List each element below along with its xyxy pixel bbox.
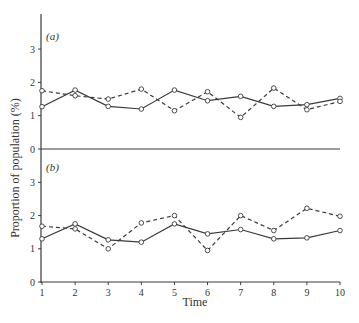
x-tick-label: 7: [238, 287, 243, 298]
data-point-marker: [238, 213, 243, 218]
x-tick-label: 8: [271, 287, 276, 298]
data-point-marker: [106, 238, 111, 243]
y-tick-label: 3: [30, 177, 35, 188]
x-tick-label: 9: [304, 287, 309, 298]
data-point-marker: [73, 93, 78, 98]
data-point-marker: [172, 108, 177, 113]
y-tick-label: 3: [30, 44, 35, 55]
series-solid-line: [42, 90, 340, 109]
data-point-marker: [106, 97, 111, 102]
data-point-marker: [73, 222, 78, 227]
x-tick-label: 1: [40, 287, 45, 298]
data-point-marker: [205, 232, 210, 237]
data-point-marker: [73, 88, 78, 93]
data-point-marker: [305, 206, 310, 211]
y-tick-label: 1: [30, 110, 35, 121]
y-axis-title: Proportion of population (%): [8, 98, 22, 238]
panel-b-label: (b): [46, 161, 59, 174]
x-tick-label: 2: [73, 287, 78, 298]
data-point-marker: [40, 224, 45, 229]
data-point-marker: [271, 104, 276, 109]
panel-a-label: (a): [46, 30, 59, 43]
x-tick-label: 5: [172, 287, 177, 298]
data-point-marker: [139, 240, 144, 245]
data-point-marker: [139, 221, 144, 226]
data-point-marker: [139, 107, 144, 112]
data-point-marker: [205, 98, 210, 103]
data-point-marker: [238, 94, 243, 99]
data-point-marker: [205, 248, 210, 253]
series-dashed-line: [42, 88, 340, 117]
data-point-marker: [338, 228, 343, 233]
y-tick-label: 2: [30, 210, 35, 221]
data-point-marker: [139, 87, 144, 92]
data-point-marker: [40, 237, 45, 242]
data-point-marker: [271, 228, 276, 233]
data-point-marker: [271, 86, 276, 91]
data-point-marker: [305, 107, 310, 112]
data-point-marker: [40, 104, 45, 109]
data-point-marker: [338, 214, 343, 219]
panel-a: 0123: [30, 44, 342, 155]
data-point-marker: [305, 236, 310, 241]
data-point-marker: [338, 99, 343, 104]
data-point-marker: [172, 88, 177, 93]
chart: 0123 012312345678910 (a) (b) Time Propor…: [0, 0, 359, 323]
y-tick-label: 2: [30, 77, 35, 88]
data-point-marker: [238, 115, 243, 120]
data-point-marker: [106, 104, 111, 109]
data-point-marker: [106, 247, 111, 252]
data-point-marker: [238, 227, 243, 232]
data-point-marker: [73, 227, 78, 232]
data-point-marker: [271, 237, 276, 242]
data-point-marker: [172, 213, 177, 218]
x-tick-label: 10: [335, 287, 345, 298]
y-tick-label: 0: [30, 144, 35, 155]
x-tick-label: 4: [139, 287, 144, 298]
x-axis-title: Time: [183, 295, 208, 309]
y-tick-label: 0: [30, 277, 35, 288]
data-point-marker: [172, 222, 177, 227]
data-point-marker: [40, 88, 45, 93]
data-point-marker: [205, 89, 210, 94]
y-tick-label: 1: [30, 243, 35, 254]
panel-b: 012312345678910: [30, 177, 345, 298]
x-tick-label: 3: [106, 287, 111, 298]
data-point-marker: [305, 102, 310, 107]
